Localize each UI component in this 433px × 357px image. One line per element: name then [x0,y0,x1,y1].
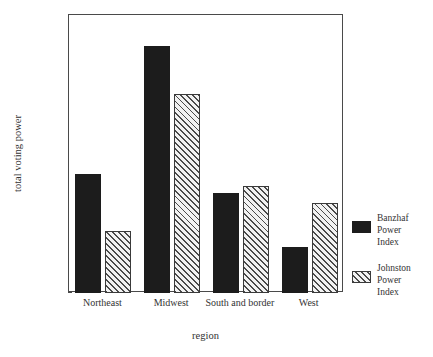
legend-entry-1[interactable]: BanzhafPowerIndex [352,212,433,248]
x-axis-title: region [68,330,343,341]
bar-chart-figure: .340.320.300.280.260.240.220.200.180.160… [0,0,433,357]
y-tick-mark [68,292,72,293]
legend-label-1: BanzhafPowerIndex [377,212,433,248]
bar-northeast-series2 [105,231,131,293]
legend-label-line: Banzhaf [377,212,433,224]
bar-midwest-series2 [174,94,200,293]
bar-south-and-border-series1 [213,193,239,293]
bar-south-and-border-series2 [243,186,269,293]
chart-legend: BanzhafPowerIndexJohnstonPowerIndex [352,212,433,312]
bar-midwest-series1 [144,46,170,293]
bar-west-series2 [312,203,338,293]
bar-northeast-series1 [75,174,101,293]
legend-label-line: Johnston [377,262,433,274]
legend-label-2: JohnstonPowerIndex [377,262,433,298]
legend-entry-2[interactable]: JohnstonPowerIndex [352,262,433,298]
legend-swatch-2 [352,271,371,283]
legend-label-line: Index [377,236,433,248]
legend-label-line: Power [377,224,433,236]
legend-label-line: Power [377,274,433,286]
legend-label-line: Index [377,286,433,298]
x-tick-label: West [249,296,369,310]
legend-swatch-1 [352,221,371,233]
bar-west-series1 [282,247,308,293]
y-axis-title: total voting power [12,89,23,219]
x-axis: NortheastMidwestSouth and borderWest [68,296,343,312]
plot-area [68,14,343,292]
